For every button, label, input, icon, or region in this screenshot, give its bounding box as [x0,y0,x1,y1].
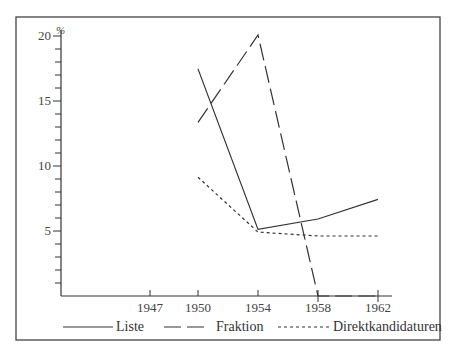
series-group [198,35,378,296]
series-line-liste [198,69,378,230]
x-tick-label-1947: 1947 [137,300,164,315]
y-axis-ticks [53,36,61,283]
x-tick-label-1954: 1954 [245,300,272,315]
y-unit-label: % [56,24,65,36]
chart-frame [16,17,440,340]
x-tick-label-1958: 1958 [305,300,331,315]
y-tick-label-5: 5 [45,223,52,238]
legend-label-direkt: Direktkandidaturen [333,319,442,334]
series-line-fraktion [198,35,378,296]
series-line-direktkandidaturen [198,177,378,236]
legend-label-fraktion: Fraktion [216,319,263,334]
legend-label-liste: Liste [116,319,144,334]
y-tick-label-15: 15 [38,93,51,108]
legend: Liste Fraktion Direktkandidaturen [63,319,442,334]
y-tick-label-10: 10 [38,158,51,173]
chart-canvas: 20 15 10 5 % 1947 1950 1954 1958 1962 Li… [0,0,455,356]
x-tick-label-1950: 1950 [185,300,211,315]
x-tick-label-1962: 1962 [365,300,391,315]
y-tick-label-20: 20 [38,28,51,43]
